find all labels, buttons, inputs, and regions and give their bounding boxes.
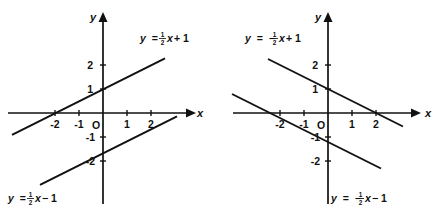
right-equation-upper: y = − 1 2 x + 1 xyxy=(244,31,301,47)
right-eq-lower-lhs: y xyxy=(330,192,338,204)
left-xtick-label-2: 2 xyxy=(148,118,154,130)
right-origin-label: O xyxy=(317,119,325,131)
right-plot-svg: x y -2 -1 1 2 O 2 1 -1 -2 y = − 1 xyxy=(223,0,446,219)
left-eq-lower-numerator: 1 xyxy=(29,191,33,198)
svg-text:y =: y = xyxy=(7,192,26,204)
left-eq-lower-variable: x xyxy=(34,192,42,204)
right-eq-upper-numerator: 1 xyxy=(273,31,277,38)
left-equation-lower: y = 1 2 x − 1 xyxy=(7,191,57,207)
left-xtick-label--1: -1 xyxy=(74,118,83,130)
left-eq-upper-variable: x xyxy=(166,32,174,44)
left-ytick-label-2: 2 xyxy=(87,59,93,71)
left-eq-upper-equals: = xyxy=(152,32,158,44)
right-xtick-label--1: -1 xyxy=(299,118,308,130)
svg-text:y = −: y = − xyxy=(330,192,361,204)
left-eq-upper-lhs: y xyxy=(139,32,147,44)
left-y-axis-label: y xyxy=(89,11,97,23)
left-eq-lower-lhs: y xyxy=(7,192,15,204)
left-ytick-label--2: -2 xyxy=(86,155,95,167)
right-x-axis-arrow-icon xyxy=(411,109,421,118)
left-eq-lower-tail: − 1 xyxy=(42,192,57,204)
left-xtick-label-1: 1 xyxy=(124,118,130,130)
right-eq-lower-tail: − 1 xyxy=(372,192,387,204)
linear-graphs-figure: x y -2 -1 1 2 O 2 1 -1 -2 y = 1 2 xyxy=(0,0,446,219)
right-eq-upper-tail: + 1 xyxy=(286,32,301,44)
left-equation-upper: y = 1 2 x + 1 xyxy=(139,31,189,47)
right-eq-upper-variable: x xyxy=(278,32,286,44)
left-eq-upper-denominator: 2 xyxy=(161,39,165,46)
right-eq-upper-equals: = xyxy=(257,32,263,44)
svg-text:y = −: y = − xyxy=(244,32,275,44)
left-coordinate-plane: x y -2 -1 1 2 O 2 1 -1 -2 y = 1 2 xyxy=(0,0,223,219)
right-eq-upper-lhs: y xyxy=(244,32,252,44)
right-y-axis-arrow-icon xyxy=(324,12,333,22)
right-ytick-label--2: -2 xyxy=(311,155,320,167)
right-xtick-label-1: 1 xyxy=(349,118,355,130)
right-ytick-label--1: -1 xyxy=(311,131,320,143)
right-eq-lower-numerator: 1 xyxy=(359,191,363,198)
right-eq-upper-denominator: 2 xyxy=(273,39,277,46)
left-ytick-label-1: 1 xyxy=(87,83,93,95)
right-y-axis-label: y xyxy=(314,11,322,23)
right-eq-lower-equals: = xyxy=(343,192,349,204)
left-line-positive-half-minus-one xyxy=(40,116,177,185)
left-y-axis-arrow-icon xyxy=(99,12,108,22)
right-eq-lower-variable: x xyxy=(364,192,372,204)
left-plot-svg: x y -2 -1 1 2 O 2 1 -1 -2 y = 1 2 xyxy=(0,0,223,219)
right-coordinate-plane: x y -2 -1 1 2 O 2 1 -1 -2 y = − 1 xyxy=(223,0,446,219)
right-line-negative-half-plus-one xyxy=(268,59,403,127)
left-eq-upper-tail: + 1 xyxy=(174,32,189,44)
right-ytick-label-1: 1 xyxy=(312,83,318,95)
left-x-axis-label: x xyxy=(196,107,204,119)
right-xtick-label--2: -2 xyxy=(275,118,284,130)
left-ytick-label--1: -1 xyxy=(86,131,95,143)
left-eq-lower-equals: = xyxy=(20,192,26,204)
left-eq-lower-denominator: 2 xyxy=(29,199,33,206)
right-ytick-label-2: 2 xyxy=(312,59,318,71)
right-eq-lower-denominator: 2 xyxy=(359,199,363,206)
left-eq-upper-numerator: 1 xyxy=(161,31,165,38)
left-x-axis-arrow-icon xyxy=(186,109,196,118)
right-xtick-label-2: 2 xyxy=(373,118,379,130)
svg-text:y =: y = xyxy=(139,32,158,44)
left-origin-label: O xyxy=(92,119,100,131)
left-xtick-label--2: -2 xyxy=(50,118,59,130)
right-equation-lower: y = − 1 2 x − 1 xyxy=(330,191,387,207)
right-x-axis-label: x xyxy=(424,107,432,119)
